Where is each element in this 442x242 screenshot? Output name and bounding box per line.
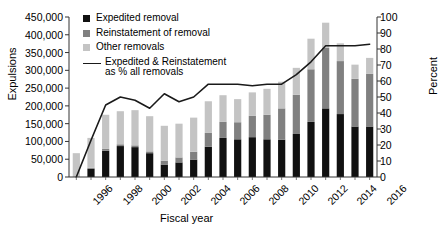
legend-item: Reinstatement of removal: [83, 28, 226, 39]
bar-segment: [205, 147, 212, 177]
stacked-bar: [131, 110, 138, 177]
bar-segment: [219, 95, 226, 122]
bar-segment: [146, 153, 153, 177]
bar-segment: [117, 111, 124, 144]
bar-segment: [175, 162, 182, 177]
bar-segment: [87, 138, 94, 168]
stacked-bar: [73, 153, 80, 177]
bar-segment: [263, 115, 270, 140]
bar-segment: [131, 110, 138, 145]
bar-segment: [87, 169, 94, 177]
bar-segment: [278, 140, 285, 177]
legend-item-label-line2: as % all removals: [105, 67, 226, 78]
bar-segment: [219, 138, 226, 177]
chart-container: Expulsions Percent Fiscal year 050,00010…: [0, 0, 442, 242]
bar-segment: [190, 152, 197, 160]
bar-segment: [249, 137, 256, 177]
stacked-bar: [366, 58, 373, 177]
stacked-bar: [234, 99, 241, 177]
stacked-bar: [263, 89, 270, 177]
bar-segment: [263, 139, 270, 177]
stacked-bar: [293, 68, 300, 177]
legend-swatch-icon: [83, 30, 90, 37]
bar-segment: [322, 48, 329, 108]
bar-segment: [161, 126, 168, 161]
bar-segment: [117, 144, 124, 146]
bar-segment: [73, 153, 80, 177]
bar-segment: [234, 122, 241, 139]
bar-segment: [366, 127, 373, 177]
bar-segment: [366, 58, 373, 74]
bar-segment: [102, 149, 109, 151]
bar-segment: [175, 124, 182, 158]
stacked-bar: [190, 118, 197, 177]
bar-segment: [205, 133, 212, 147]
stacked-bar: [249, 92, 256, 177]
stacked-bar: [278, 82, 285, 177]
bar-segment: [322, 23, 329, 48]
bar-segment: [146, 116, 153, 151]
legend-item-label: Reinstatement of removal: [96, 28, 210, 39]
bar-segment: [322, 108, 329, 177]
bar-segment: [131, 147, 138, 177]
stacked-bar: [161, 126, 168, 177]
bar-segment: [175, 157, 182, 162]
stacked-bar: [351, 65, 358, 177]
bar-segment: [161, 165, 168, 177]
stacked-bar: [175, 124, 182, 177]
bar-segment: [366, 74, 373, 127]
bar-segment: [190, 118, 197, 152]
legend-item: Expedited & Reinstatementas % all remova…: [83, 57, 226, 78]
bar-segment: [102, 115, 109, 149]
bar-segment: [146, 151, 153, 153]
chart-legend: Expedited removalReinstatement of remova…: [83, 13, 226, 82]
bar-segment: [249, 116, 256, 137]
bar-segment: [131, 145, 138, 147]
bar-segment: [234, 139, 241, 177]
bar-segment: [205, 101, 212, 133]
bar-segment: [219, 122, 226, 138]
bar-segment: [337, 61, 344, 114]
bar-segment: [351, 127, 358, 177]
stacked-bar: [102, 115, 109, 177]
legend-item: Other removals: [83, 42, 226, 53]
bar-segment: [190, 160, 197, 177]
bar-segment: [117, 146, 124, 177]
bar-segment: [351, 79, 358, 127]
bar-segment: [161, 161, 168, 165]
bar-segment: [249, 92, 256, 115]
legend-item: Expedited removal: [83, 13, 226, 24]
legend-swatch-icon: [83, 15, 90, 22]
bar-segment: [337, 114, 344, 177]
stacked-bar: [337, 43, 344, 177]
stacked-bar: [219, 95, 226, 177]
bar-segment: [293, 134, 300, 177]
stacked-bar: [117, 111, 124, 177]
stacked-bar: [205, 101, 212, 177]
stacked-bar: [87, 138, 94, 177]
legend-line-icon: [83, 63, 101, 64]
bar-segment: [102, 151, 109, 177]
bar-segment: [293, 95, 300, 134]
bar-segment: [234, 99, 241, 122]
bar-segment: [263, 89, 270, 115]
bar-segment: [307, 122, 314, 177]
legend-item-label-group: Expedited & Reinstatementas % all remova…: [105, 57, 226, 78]
stacked-bar: [146, 116, 153, 177]
bar-segment: [278, 82, 285, 109]
legend-item-label: Expedited removal: [96, 13, 179, 24]
bar-segment: [87, 168, 94, 169]
legend-item-label: Other removals: [96, 42, 164, 53]
bar-segment: [307, 69, 314, 122]
bar-segment: [278, 108, 285, 139]
legend-swatch-icon: [83, 44, 90, 51]
bar-segment: [351, 65, 358, 79]
